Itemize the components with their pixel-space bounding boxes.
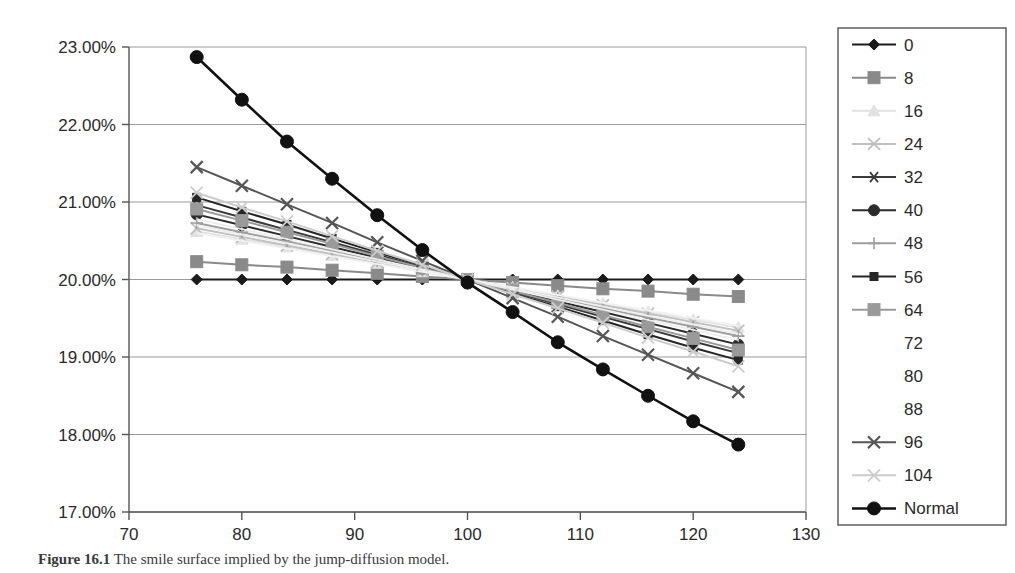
marker-square [326, 264, 338, 276]
marker-diamond [236, 274, 247, 285]
marker-diamond [281, 274, 292, 285]
x-tick-label: 120 [679, 525, 707, 544]
marker-circle-large [868, 502, 881, 515]
figure-caption-text: The smile surface implied by the jump-di… [114, 551, 450, 567]
marker-square [371, 267, 383, 279]
marker-square [236, 259, 248, 271]
marker-square [281, 261, 293, 273]
x-tick-label: 70 [120, 525, 139, 544]
legend-item-label: 104 [904, 466, 932, 485]
marker-x [281, 198, 293, 210]
legend-item-label: 80 [904, 367, 923, 386]
legend-item-label: 24 [904, 135, 923, 154]
x-tick-label: 100 [453, 525, 481, 544]
marker-diamond [191, 274, 202, 285]
marker-circle-large [190, 51, 203, 64]
marker-circle-large [416, 244, 429, 257]
series-Normal [190, 51, 745, 452]
marker-x [732, 386, 744, 398]
y-tick-label: 19.00% [58, 348, 116, 367]
figure-caption: Figure 16.1 The smile surface implied by… [38, 551, 998, 573]
marker-square [191, 256, 203, 268]
legend-item-label: 32 [904, 168, 923, 187]
marker-plus [191, 217, 203, 229]
marker-circle-large [687, 415, 700, 428]
marker-square [732, 344, 744, 356]
y-tick-label: 22.00% [58, 116, 116, 135]
marker-circle-large [506, 306, 519, 319]
marker-square [687, 332, 699, 344]
marker-circle-large [371, 209, 384, 222]
marker-diamond [733, 274, 744, 285]
legend-item-80[interactable]: 80 [904, 367, 923, 386]
marker-circle-large [461, 276, 474, 289]
x-tick-label: 130 [792, 525, 820, 544]
marker-square [642, 285, 654, 297]
marker-circle-large [732, 438, 745, 451]
marker-square [236, 215, 248, 227]
marker-square [191, 203, 203, 215]
y-tick-label: 18.00% [58, 426, 116, 445]
marker-diamond [688, 274, 699, 285]
marker-square [732, 291, 744, 303]
marker-square [642, 321, 654, 333]
marker-circle-large [551, 336, 564, 349]
legend-item-72[interactable]: 72 [904, 334, 923, 353]
marker-x [597, 330, 609, 342]
marker-x [236, 180, 248, 192]
marker-circle-large [642, 389, 655, 402]
figure-number: Figure 16.1 [38, 551, 110, 567]
legend-item-label: 16 [904, 102, 923, 121]
marker-x [687, 367, 699, 379]
legend-item-label: 72 [904, 334, 923, 353]
marker-x [642, 349, 654, 361]
x-tick-label: 90 [345, 525, 364, 544]
marker-square [868, 304, 880, 316]
marker-circle-large [596, 363, 609, 376]
line-chart: 17.00%18.00%19.00%20.00%21.00%22.00%23.0… [0, 0, 1015, 545]
x-tick-label: 80 [232, 525, 251, 544]
marker-small-square [870, 273, 878, 281]
series-line [197, 57, 739, 445]
marker-square [281, 226, 293, 238]
marker-square [597, 283, 609, 295]
marker-square [868, 72, 880, 84]
legend-item-label: 40 [904, 201, 923, 220]
marker-square [687, 288, 699, 300]
marker-x [191, 161, 203, 173]
legend-item-label: 96 [904, 433, 923, 452]
x-tick-label: 110 [567, 525, 594, 544]
chart-page: 17.00%18.00%19.00%20.00%21.00%22.00%23.0… [0, 0, 1015, 573]
legend-item-label: 88 [904, 400, 923, 419]
legend-item-label: 8 [904, 69, 913, 88]
legend-item-88[interactable]: 88 [904, 400, 923, 419]
marker-circle [869, 205, 880, 216]
legend-item-label: 0 [904, 36, 913, 55]
legend-item-label: Normal [904, 499, 959, 518]
legend-item-label: 56 [904, 268, 923, 287]
legend-item-label: 64 [904, 301, 923, 320]
y-tick-label: 23.00% [58, 38, 116, 57]
marker-diamond [643, 274, 654, 285]
y-tick-label: 20.00% [58, 271, 116, 290]
marker-circle-large [235, 93, 248, 106]
marker-x [326, 217, 338, 229]
marker-circle-large [280, 135, 293, 148]
marker-circle-large [326, 172, 339, 185]
legend-item-label: 48 [904, 234, 923, 253]
legend: 081624324048566472808896104Normal [838, 28, 1006, 525]
y-tick-label: 21.00% [58, 193, 116, 212]
y-tick-label: 17.00% [58, 503, 116, 522]
